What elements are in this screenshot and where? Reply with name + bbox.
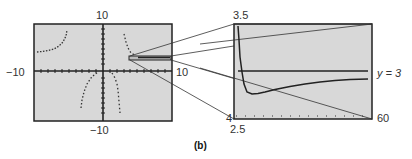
left-ymax-label: 10	[96, 9, 108, 21]
figure-canvas	[0, 0, 412, 159]
asymptote-label: y = 3	[377, 67, 401, 79]
right-graph	[200, 24, 372, 119]
left-ymin-label: −10	[90, 124, 109, 136]
left-xmin-label: −10	[6, 66, 25, 78]
right-ymin-label: 2.5	[230, 123, 245, 135]
right-xmax-label: 60	[377, 112, 389, 124]
figure-caption: (b)	[194, 140, 207, 151]
right-ymax-label: 3.5	[233, 9, 248, 21]
left-xmax-label: 10	[176, 66, 188, 78]
